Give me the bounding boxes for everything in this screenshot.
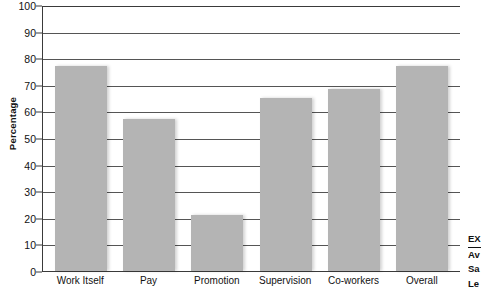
side-note-line-0: EX: [468, 232, 487, 248]
bar-slot: [320, 6, 388, 271]
y-tick-mark-90: [36, 32, 42, 33]
y-tick-mark-80: [36, 59, 42, 60]
y-tick-label-80: 80: [2, 53, 36, 65]
bar-chart-figure: Percentage 0102030405060708090100 Work I…: [0, 0, 487, 301]
x-tick-label-3: Supervision: [251, 275, 319, 286]
y-tick-label-100: 100: [2, 0, 36, 12]
y-tick-mark-30: [36, 192, 42, 193]
y-tick-label-10: 10: [2, 239, 36, 251]
bar-pay: [123, 119, 175, 271]
bar-slot: [47, 6, 115, 271]
bar-slot: [115, 6, 183, 271]
y-tick-mark-0: [36, 272, 42, 273]
y-tick-mark-60: [36, 112, 42, 113]
side-note-clipped: EXAvSaLe: [468, 232, 487, 291]
x-tick-label-0: Work Itself: [46, 275, 114, 286]
bar-promotion: [191, 215, 243, 271]
x-tick-label-4: Co-workers: [319, 275, 387, 286]
x-tick-label-5: Overall: [388, 275, 456, 286]
y-tick-mark-50: [36, 139, 42, 140]
bar-supervision: [260, 98, 312, 271]
side-note-line-2: Sa: [468, 262, 487, 277]
plot-area: [42, 6, 460, 272]
bar-co-workers: [328, 89, 380, 271]
x-tick-label-1: Pay: [114, 275, 182, 286]
y-tick-mark-70: [36, 85, 42, 86]
bar-slot: [388, 6, 456, 271]
y-tick-mark-20: [36, 218, 42, 219]
y-axis-title: Percentage: [7, 84, 18, 164]
y-tick-mark-100: [36, 6, 42, 7]
x-tick-label-2: Promotion: [183, 275, 251, 286]
y-tick-label-30: 30: [2, 186, 36, 198]
side-note-line-1: Av: [468, 248, 487, 263]
y-tick-label-20: 20: [2, 213, 36, 225]
bars-group: [43, 6, 460, 271]
side-note-line-3: Le: [468, 277, 487, 292]
y-tick-label-40: 40: [2, 160, 36, 172]
y-tick-mark-10: [36, 245, 42, 246]
bar-overall: [396, 66, 448, 271]
y-tick-label-50: 50: [2, 133, 36, 145]
y-tick-label-90: 90: [2, 27, 36, 39]
y-tick-label-0: 0: [2, 266, 36, 278]
y-tick-mark-40: [36, 165, 42, 166]
bar-slot: [252, 6, 320, 271]
bar-work-itself: [55, 66, 107, 271]
bar-slot: [183, 6, 251, 271]
x-axis-labels: Work ItselfPayPromotionSupervisionCo-wor…: [42, 275, 460, 286]
y-tick-label-60: 60: [2, 106, 36, 118]
y-tick-label-70: 70: [2, 80, 36, 92]
